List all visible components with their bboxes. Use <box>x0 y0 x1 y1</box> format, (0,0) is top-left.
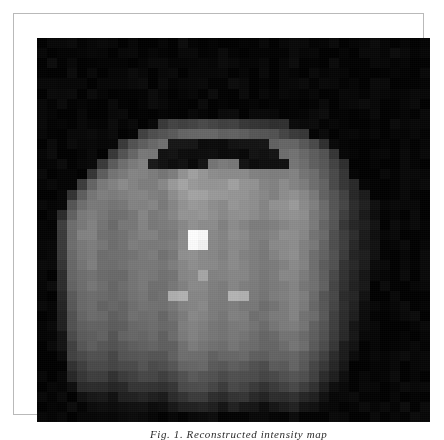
figure-caption-strip: Fig. 1. Reconstructed intensity map <box>0 430 444 440</box>
scan-image-canvas <box>37 38 430 422</box>
figure-root: Fig. 1. Reconstructed intensity map <box>0 0 444 440</box>
figure-plate-frame <box>13 13 424 415</box>
figure-caption: Fig. 1. Reconstructed intensity map <box>150 430 327 440</box>
pixel-heatmap <box>37 38 430 422</box>
